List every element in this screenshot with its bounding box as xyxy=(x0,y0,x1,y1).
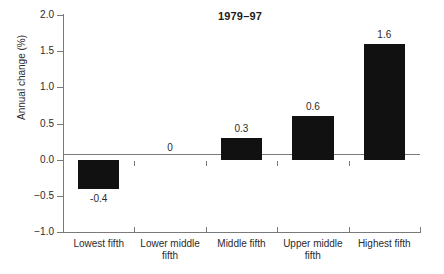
y-axis-tick-label: −1.0 xyxy=(8,227,54,237)
x-axis-line xyxy=(63,232,420,233)
x-axis-tick xyxy=(206,161,207,166)
bar-chart: 1979–97 Annual change (%) 2.01.51.00.50.… xyxy=(0,0,444,274)
y-axis-tick-label: 0.0 xyxy=(8,155,54,165)
bar-value-label: 0.3 xyxy=(206,124,277,134)
bar xyxy=(292,116,333,159)
y-axis-tick xyxy=(57,15,63,16)
bar-value-label: -0.4 xyxy=(63,194,134,204)
y-axis-tick xyxy=(57,51,63,52)
category-label-line: Highest fifth xyxy=(343,238,426,250)
x-axis-tick-bottom xyxy=(420,227,421,233)
x-axis-category-label: Highest fifth xyxy=(343,238,426,250)
y-axis-tick-label: −0.5 xyxy=(8,191,54,201)
y-axis-tick-label: 0.5 xyxy=(8,119,54,129)
x-axis-tick xyxy=(277,161,278,166)
bar xyxy=(78,160,119,189)
bar-value-label: 0.6 xyxy=(277,102,348,112)
y-axis-tick xyxy=(57,124,63,125)
y-axis-tick-label: 2.0 xyxy=(8,10,54,20)
bar-value-label: 1.6 xyxy=(349,30,420,40)
x-axis-tick-bottom xyxy=(206,227,207,233)
bar xyxy=(364,44,405,160)
bar xyxy=(221,138,262,160)
chart-title: 1979–97 xyxy=(160,10,320,22)
x-axis-tick-bottom xyxy=(63,227,64,233)
y-axis-tick-label: 1.0 xyxy=(8,82,54,92)
bar-value-label: 0 xyxy=(134,143,205,153)
x-axis-tick-bottom xyxy=(277,227,278,233)
x-axis-tick xyxy=(349,161,350,166)
x-axis-tick-bottom xyxy=(134,227,135,233)
x-axis-tick-bottom xyxy=(349,227,350,233)
x-axis-tick xyxy=(134,161,135,166)
y-axis-tick-label: 1.5 xyxy=(8,46,54,56)
category-label-line: fifth xyxy=(271,250,354,262)
y-axis-tick xyxy=(57,87,63,88)
category-label-line: fifth xyxy=(128,250,211,262)
y-axis-tick xyxy=(57,160,63,161)
